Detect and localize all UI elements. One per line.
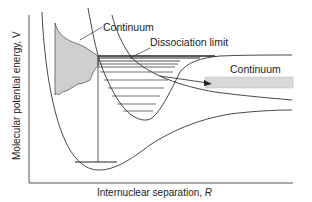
potential-energy-diagram: Continuum Dissociation limit Continuum M… (0, 0, 312, 202)
x-axis-label: Internuclear separation, R (97, 187, 212, 198)
label-continuum-right: Continuum (230, 63, 281, 75)
near-dissociation-levels (98, 56, 215, 67)
label-continuum-left: Continuum (103, 21, 154, 33)
continuum-band (205, 77, 293, 88)
x-axis-label-var: R (205, 187, 212, 198)
label-dissociation-limit: Dissociation limit (150, 36, 228, 48)
spectrum-profile-shading (55, 23, 98, 95)
x-axis-label-text: Internuclear separation, (97, 187, 205, 198)
y-axis-label: Molecular potential energy, V (11, 31, 22, 160)
leader-line-continuum (80, 27, 102, 40)
